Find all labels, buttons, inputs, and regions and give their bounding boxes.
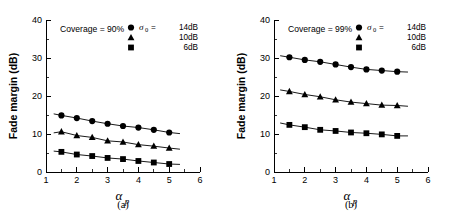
data-point-circle <box>128 24 134 30</box>
x-tick-label: 1 <box>43 175 48 185</box>
legend-sigma-subscript: 0 <box>373 26 376 33</box>
y-tick-label: 0 <box>265 167 270 177</box>
data-point-square <box>74 152 80 158</box>
data-point-square <box>356 45 362 51</box>
x-tick-label: 6 <box>425 175 430 185</box>
data-series-6dB <box>280 122 408 139</box>
data-point-square <box>128 45 134 51</box>
data-point-square <box>105 155 111 161</box>
trend-line <box>54 151 180 164</box>
y-tick-label: 20 <box>260 91 270 101</box>
data-point-circle <box>356 24 362 30</box>
figure-container: 010203040123456Fade margin (dB)αpCoverag… <box>0 0 456 216</box>
x-tick-label: 3 <box>105 175 110 185</box>
coverage-annotation: Coverage = 99% <box>288 24 353 34</box>
legend: σ0=14dB10dB6dB <box>356 22 427 52</box>
y-axis-title: Fade margin (dB) <box>7 53 19 139</box>
data-point-circle <box>348 64 354 70</box>
data-point-triangle <box>58 128 65 134</box>
legend-equals: = <box>151 23 156 32</box>
y-tick-label: 0 <box>37 167 42 177</box>
data-point-circle <box>89 118 95 124</box>
y-tick-label: 10 <box>32 129 42 139</box>
legend-equals: = <box>379 23 384 32</box>
data-point-circle <box>151 127 157 133</box>
chart-panel-b: 010203040123456Fade margin (dB)αpCoverag… <box>228 0 456 216</box>
trend-line <box>54 132 180 149</box>
legend-value-14dB: 14dB <box>407 23 427 32</box>
data-point-circle <box>302 57 308 63</box>
data-point-square <box>136 158 142 164</box>
data-point-circle <box>120 123 126 129</box>
legend-value-14dB: 14dB <box>179 23 199 32</box>
x-tick-label: 4 <box>136 175 141 185</box>
data-series-10dB <box>280 88 408 108</box>
legend-value-10dB: 10dB <box>179 33 199 42</box>
data-point-circle <box>394 69 400 75</box>
x-axis-ticks: 123456 <box>43 167 202 185</box>
x-tick-label: 6 <box>197 175 202 185</box>
data-point-circle <box>135 124 141 130</box>
data-point-square <box>317 127 323 133</box>
y-tick-label: 10 <box>260 129 270 139</box>
data-point-circle <box>286 54 292 60</box>
legend-sigma-symbol: σ <box>367 22 372 32</box>
y-axis-ticks: 010203040 <box>260 15 279 177</box>
y-tick-label: 30 <box>260 53 270 63</box>
data-point-triangle <box>128 34 135 40</box>
y-tick-label: 20 <box>32 91 42 101</box>
trend-line <box>280 56 408 72</box>
axes <box>274 20 428 172</box>
panel-caption: (b) <box>345 199 358 211</box>
data-point-circle <box>58 112 64 118</box>
data-point-square <box>166 161 172 167</box>
data-point-triangle <box>356 34 363 40</box>
data-point-square <box>364 130 370 136</box>
data-series-14dB <box>54 112 180 135</box>
data-point-circle <box>333 61 339 67</box>
chart-panel-a: 010203040123456Fade margin (dB)αpCoverag… <box>0 0 228 216</box>
y-tick-label: 40 <box>260 15 270 25</box>
coverage-annotation: Coverage = 90% <box>60 24 125 34</box>
data-point-square <box>302 124 308 130</box>
x-tick-label: 5 <box>395 175 400 185</box>
y-axis-ticks: 010203040 <box>32 15 51 177</box>
panel-caption: (a) <box>117 199 129 211</box>
x-axis-ticks: 123456 <box>271 167 430 185</box>
x-tick-label: 5 <box>167 175 172 185</box>
data-point-circle <box>379 67 385 73</box>
x-tick-label: 1 <box>271 175 276 185</box>
legend-sigma-symbol: σ <box>139 22 144 32</box>
data-point-square <box>287 122 293 128</box>
legend-value-10dB: 10dB <box>407 33 427 42</box>
data-point-square <box>379 131 385 137</box>
legend-value-6dB: 6dB <box>411 43 426 52</box>
plot-area-a: 010203040123456Fade margin (dB)αpCoverag… <box>0 0 228 216</box>
legend: σ0=14dB10dB6dB <box>128 22 199 52</box>
data-point-square <box>151 160 157 166</box>
y-axis-title: Fade margin (dB) <box>235 53 247 139</box>
data-point-square <box>348 130 354 136</box>
data-point-circle <box>166 129 172 135</box>
data-point-square <box>394 133 400 139</box>
legend-value-6dB: 6dB <box>183 43 198 52</box>
x-tick-label: 2 <box>74 175 79 185</box>
data-point-square <box>59 149 65 155</box>
data-point-square <box>333 128 339 134</box>
x-tick-label: 2 <box>302 175 307 185</box>
data-point-square <box>120 156 126 162</box>
trend-line <box>280 90 408 106</box>
x-tick-label: 4 <box>364 175 369 185</box>
data-series-6dB <box>54 149 180 167</box>
data-point-circle <box>74 115 80 121</box>
y-tick-label: 30 <box>32 53 42 63</box>
data-point-square <box>89 153 95 159</box>
data-series-14dB <box>280 54 408 75</box>
plot-area-b: 010203040123456Fade margin (dB)αpCoverag… <box>228 0 456 216</box>
trend-line <box>54 114 180 134</box>
y-tick-label: 40 <box>32 15 42 25</box>
trend-line <box>280 123 408 136</box>
data-point-circle <box>363 66 369 72</box>
x-tick-label: 3 <box>333 175 338 185</box>
legend-sigma-subscript: 0 <box>145 26 148 33</box>
